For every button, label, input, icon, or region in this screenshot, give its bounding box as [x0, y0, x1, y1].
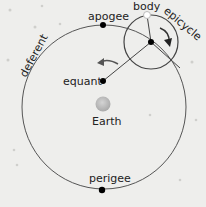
equant-label: equant	[63, 75, 102, 88]
earth-icon	[96, 97, 111, 112]
background-speckles	[7, 5, 198, 182]
diagram-canvas: apogee body equant Earth perigee epicycl…	[0, 0, 206, 207]
epicycle-center-dot	[148, 39, 154, 45]
perigee-label: perigee	[89, 172, 131, 185]
earth-label: Earth	[92, 115, 122, 128]
epicycle-label: epicycle	[161, 4, 204, 43]
deferent-label: deferent	[17, 31, 51, 79]
ptolemaic-diagram: apogee body equant Earth perigee epicycl…	[0, 0, 206, 207]
apogee-label: apogee	[88, 10, 129, 23]
body-label: body	[133, 0, 161, 13]
perigee-dot	[99, 187, 105, 193]
